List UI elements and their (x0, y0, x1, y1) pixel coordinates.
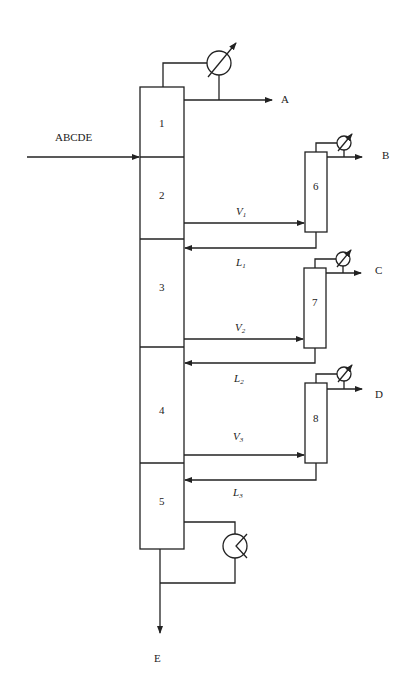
column-8-label: 8 (313, 412, 319, 424)
v2-label: V2 (235, 321, 246, 335)
l2-label: L2 (233, 372, 244, 386)
product-e-label: E (154, 652, 161, 664)
feed-stream: ABCDE (27, 131, 139, 157)
side-column-7: 7 C V2 L2 (184, 250, 382, 386)
main-column: 1 2 3 4 5 (140, 87, 184, 549)
v1-label: V1 (236, 205, 246, 219)
section-2-label: 2 (159, 189, 165, 201)
condenser-arrow-icon (208, 43, 236, 77)
v3-label: V3 (233, 430, 244, 444)
section-5-label: 5 (159, 495, 165, 507)
section-1-label: 1 (159, 117, 165, 129)
section-3-label: 3 (159, 281, 165, 293)
section-4-label: 4 (159, 404, 165, 416)
product-b-label: B (382, 149, 389, 161)
product-c-label: C (375, 264, 382, 276)
side-column-6: 6 B V1 L1 (184, 134, 389, 270)
side-column-8: 8 D V3 L3 (184, 365, 383, 500)
distillation-diagram: 1 2 3 4 5 ABCDE A 6 B V1 L1 7 (0, 0, 405, 691)
product-a-label: A (281, 93, 289, 105)
feed-label: ABCDE (55, 131, 93, 143)
l1-label: L1 (235, 256, 246, 270)
l3-label: L3 (232, 486, 243, 500)
product-d-label: D (375, 388, 383, 400)
reboiler-icon (236, 534, 247, 558)
column-7-label: 7 (312, 296, 318, 308)
column-6-label: 6 (313, 180, 319, 192)
